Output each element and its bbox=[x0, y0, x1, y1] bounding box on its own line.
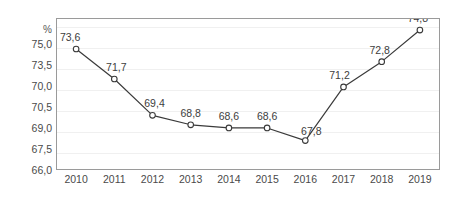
data-point-label: 68,6 bbox=[219, 111, 239, 122]
x-axis-tick-labels: 2010201120122013201420152016201720182019 bbox=[56, 173, 440, 193]
x-axis-tick-label: 2010 bbox=[56, 173, 96, 185]
y-axis-tick-label: 70,5 bbox=[14, 102, 52, 113]
x-axis-tick-label: 2015 bbox=[247, 173, 287, 185]
y-axis-tick-label: 66,0 bbox=[14, 165, 52, 176]
data-point-label: 72,8 bbox=[369, 45, 389, 56]
x-axis-tick-label: 2014 bbox=[209, 173, 249, 185]
x-axis-tick-label: 2016 bbox=[285, 173, 325, 185]
data-point-label: 68,8 bbox=[180, 108, 200, 119]
x-axis-tick-label: 2019 bbox=[400, 173, 440, 185]
data-point-label: 68,6 bbox=[257, 111, 277, 122]
x-axis-tick-label: 2017 bbox=[324, 173, 364, 185]
data-point-marker bbox=[150, 113, 156, 119]
data-point-label: 67,8 bbox=[301, 126, 321, 137]
y-axis-tick-label: 67,5 bbox=[14, 144, 52, 155]
x-axis-tick-label: 2011 bbox=[94, 173, 134, 185]
y-axis-tick-label: 75,0 bbox=[14, 39, 52, 50]
y-axis-tick-labels: 75,073,570,070,569,067,566,0 bbox=[14, 18, 52, 170]
data-point-marker bbox=[73, 46, 79, 52]
series-line bbox=[76, 30, 420, 141]
data-point-label: 71,2 bbox=[329, 70, 349, 81]
data-point-label: 73,6 bbox=[60, 32, 80, 43]
data-point-marker bbox=[303, 138, 309, 144]
x-axis-tick-label: 2012 bbox=[133, 173, 173, 185]
data-point-label: 74,8 bbox=[408, 18, 428, 24]
data-point-marker bbox=[379, 59, 385, 65]
data-point-marker bbox=[417, 27, 423, 33]
line-chart-figure: % 75,073,570,070,569,067,566,0 73,671,76… bbox=[0, 0, 462, 198]
data-point-label: 71,7 bbox=[106, 62, 126, 73]
data-point-marker bbox=[341, 84, 347, 90]
data-point-marker bbox=[112, 76, 118, 82]
data-point-marker bbox=[226, 125, 232, 131]
y-axis-tick-label: 73,5 bbox=[14, 60, 52, 71]
x-axis-tick-label: 2018 bbox=[362, 173, 402, 185]
y-axis-tick-label: 69,0 bbox=[14, 123, 52, 134]
data-point-marker bbox=[264, 125, 270, 131]
series-line-and-markers bbox=[57, 19, 439, 169]
plot-area: 73,671,769,468,868,668,667,871,272,874,8 bbox=[56, 18, 440, 170]
data-point-label: 69,4 bbox=[144, 98, 164, 109]
x-axis-tick-label: 2013 bbox=[171, 173, 211, 185]
y-axis-tick-label: 70,0 bbox=[14, 81, 52, 92]
data-point-marker bbox=[188, 122, 194, 128]
